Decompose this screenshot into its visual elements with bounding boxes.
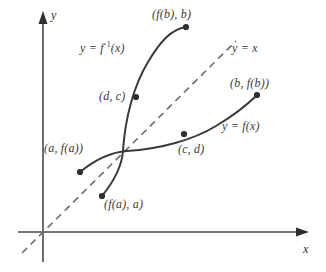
function-label: y = f(x): [222, 120, 260, 132]
point-label-c-d: (c, d): [178, 143, 205, 155]
inverse-function-label: y = f-1(x): [80, 42, 125, 54]
inverse-function-diagram: y x y = f-1(x) y = x y = f(x) (f(b), b) …: [0, 0, 326, 272]
inverse-function-label-exponent: -1: [104, 40, 111, 49]
point-label-a-fa: (a, f(a)): [44, 142, 83, 154]
dot-f-b-b: [183, 24, 189, 30]
dot-c-d: [181, 131, 187, 137]
diagram-canvas: [0, 0, 326, 272]
point-label-d-c: (d, c): [99, 90, 126, 102]
inverse-function-label-prefix: y = f: [80, 41, 104, 55]
x-axis: [18, 228, 309, 237]
dot-a-fa: [77, 169, 83, 175]
dot-d-c: [133, 94, 139, 100]
identity-line-label: y = x: [232, 42, 258, 54]
point-label-f-b-b: (f(b), b): [152, 8, 191, 20]
point-label-b-fb: (b, f(b)): [230, 77, 269, 89]
inverse-function-label-suffix: (x): [111, 41, 125, 55]
function-curve: [80, 95, 257, 172]
y-axis-label: y: [51, 9, 56, 21]
point-label-f-a-a: (f(a), a): [104, 198, 143, 210]
dot-b-fb: [254, 92, 260, 98]
x-axis-label: x: [303, 243, 308, 255]
y-axis: [39, 11, 48, 262]
